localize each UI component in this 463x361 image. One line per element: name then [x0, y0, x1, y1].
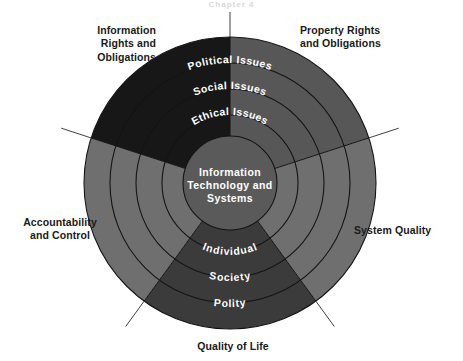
- figure-root: Chapter 4: [0, 0, 463, 361]
- core-label-line2: Technology and: [187, 179, 272, 191]
- pointer-upper-left: [61, 128, 91, 138]
- core-label-line1: Information: [199, 166, 261, 178]
- pointer-upper-right: [369, 128, 399, 138]
- outer-label-property-rights-and-obligations: Property Rights and Obligations: [300, 24, 458, 51]
- outer-label-information-rights-and-obligations: Information Rights and Obligations: [8, 24, 156, 64]
- pointer-lower-left: [126, 301, 145, 326]
- outer-label-accountability-and-control: Accountability and Control: [2, 216, 118, 243]
- pointer-lower-right: [316, 301, 335, 326]
- ring-label-polity: Polity: [213, 296, 246, 309]
- core-label-line3: Systems: [207, 192, 253, 204]
- outer-label-system-quality: System Quality: [354, 224, 462, 237]
- outer-label-quality-of-life: Quality of Life: [150, 340, 316, 353]
